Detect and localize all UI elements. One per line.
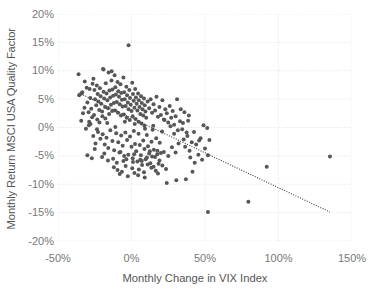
scatter-point: [121, 144, 125, 148]
scatter-point: [130, 109, 134, 113]
scatter-point: [157, 158, 161, 162]
scatter-point: [194, 143, 198, 147]
scatter-point: [103, 116, 107, 120]
scatter-point: [79, 119, 83, 123]
scatter-point: [168, 124, 172, 128]
x-tick-label: -50%: [28, 253, 88, 264]
scatter-point: [121, 76, 125, 80]
scatter-point: [174, 150, 178, 154]
scatter-point: [185, 134, 189, 138]
scatter-point: [105, 136, 109, 140]
scatter-point: [174, 178, 178, 182]
scatter-point: [171, 109, 175, 113]
scatter-point: [169, 116, 173, 120]
scatter-point: [131, 160, 135, 164]
x-tick-label: 50%: [175, 253, 235, 264]
scatter-point: [112, 165, 116, 169]
x-tick-label: 150%: [322, 253, 368, 264]
scatter-point: [83, 80, 87, 84]
scatter-point: [140, 163, 144, 167]
scatter-point: [110, 69, 114, 73]
scatter-point: [153, 108, 157, 112]
scatter-point: [150, 154, 154, 158]
scatter-point: [124, 104, 128, 108]
scatter-point: [119, 133, 123, 137]
scatter-point: [166, 120, 170, 124]
scatter-point: [128, 118, 132, 122]
scatter-point: [140, 159, 144, 163]
scatter-point: [131, 156, 135, 160]
scatter-point: [146, 144, 150, 148]
scatter-point: [180, 127, 184, 131]
scatter-point: [144, 116, 148, 120]
scatter-point: [132, 99, 136, 103]
scatter-point: [104, 81, 108, 85]
scatter-point: [102, 68, 106, 72]
scatter-point: [123, 131, 127, 135]
scatter-point: [92, 88, 96, 92]
scatter-point: [123, 120, 127, 124]
scatter-point: [165, 111, 169, 115]
scatter-point: [145, 133, 149, 137]
scatter-point: [142, 147, 146, 151]
scatter-point: [149, 97, 153, 101]
scatter-point: [135, 108, 139, 112]
scatter-point: [196, 153, 200, 157]
scatter-point: [136, 173, 140, 177]
scatter-point: [115, 161, 119, 165]
scatter-point: [145, 156, 149, 160]
scatter-point: [192, 130, 196, 134]
scatter-point: [141, 139, 145, 143]
scatter-point: [152, 148, 156, 152]
scatter-point: [124, 157, 128, 161]
scatter-point: [143, 175, 147, 179]
scatter-point: [87, 110, 91, 114]
gridlines: [58, 14, 352, 241]
scatter-point: [162, 150, 166, 154]
scatter-point: [100, 155, 104, 159]
scatter-point: [110, 139, 114, 143]
scatter-point: [91, 82, 95, 86]
scatter-point: [154, 136, 158, 140]
scatter-point: [124, 164, 128, 168]
scatter-point: [170, 145, 174, 149]
scatter-point: [116, 140, 120, 144]
scatter-point: [184, 177, 188, 181]
scatter-point: [182, 110, 186, 114]
scatter-point: [77, 72, 81, 76]
scatter-point: [105, 98, 109, 102]
scatter-point: [93, 147, 97, 151]
scatter-point: [206, 210, 210, 214]
scatter-point: [85, 153, 89, 157]
scatter-point: [163, 107, 167, 111]
scatter-point: [132, 171, 136, 175]
scatter-point: [166, 154, 170, 158]
scatter-point: [114, 131, 118, 135]
scatter-point: [125, 93, 129, 97]
scatter-point: [154, 95, 158, 99]
scatter-point: [95, 127, 99, 131]
scatter-point: [126, 174, 130, 178]
scatter-point: [191, 170, 195, 174]
scatter-point: [155, 152, 159, 156]
scatter-point: [328, 154, 332, 158]
scatter-point: [82, 106, 86, 110]
scatter-point: [135, 102, 139, 106]
scatter-point: [117, 95, 121, 99]
scatter-point: [143, 127, 147, 131]
scatter-point: [103, 143, 107, 147]
scatter-point: [139, 153, 143, 157]
scatter-point: [175, 97, 179, 101]
scatter-point: [128, 96, 132, 100]
scatter-point: [200, 158, 204, 162]
scatter-point: [143, 110, 147, 114]
scatter-point: [113, 125, 117, 129]
scatter-point: [203, 146, 207, 150]
scatter-point: [136, 91, 140, 95]
scatter-point: [158, 141, 162, 145]
scatter-point: [122, 90, 126, 94]
scatter-point: [127, 43, 131, 47]
scatter-point: [165, 181, 169, 185]
x-tick-label: 100%: [249, 253, 309, 264]
scatter-point: [134, 95, 138, 99]
